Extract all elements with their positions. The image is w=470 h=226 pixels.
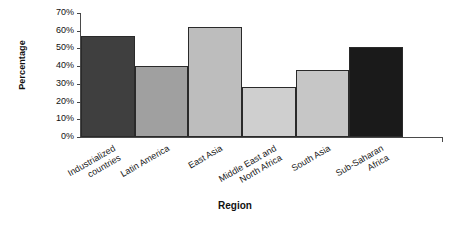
y-tick-label: 60% — [34, 26, 74, 35]
bar-chart: Percentage 0%10%20%30%40%50%60%70% Indus… — [0, 0, 470, 226]
bar — [349, 47, 403, 137]
bar — [81, 36, 135, 137]
y-tick-mark — [77, 137, 81, 138]
y-tick-mark — [77, 13, 81, 14]
bar — [296, 70, 350, 137]
y-axis-title: Percentage — [17, 20, 27, 110]
x-axis-tick-labels: Industrialized countriesLatin AmericaEas… — [0, 137, 470, 197]
y-tick-mark — [77, 84, 81, 85]
bar — [188, 27, 242, 137]
y-tick-mark — [77, 31, 81, 32]
y-tick-label: 50% — [34, 43, 74, 52]
y-tick-label: 10% — [34, 114, 74, 123]
y-tick-label: 40% — [34, 61, 74, 70]
y-tick-mark — [77, 102, 81, 103]
x-axis-title: Region — [0, 200, 470, 211]
bar — [242, 87, 296, 137]
bar — [135, 66, 189, 137]
y-tick-label: 30% — [34, 79, 74, 88]
y-tick-label: 20% — [34, 97, 74, 106]
plot-area — [81, 13, 443, 137]
y-tick-mark — [77, 48, 81, 49]
y-tick-label: 70% — [34, 8, 74, 17]
x-tick-label: Sub-Saharan Africa — [273, 143, 391, 224]
y-tick-mark — [77, 119, 81, 120]
y-tick-mark — [77, 66, 81, 67]
